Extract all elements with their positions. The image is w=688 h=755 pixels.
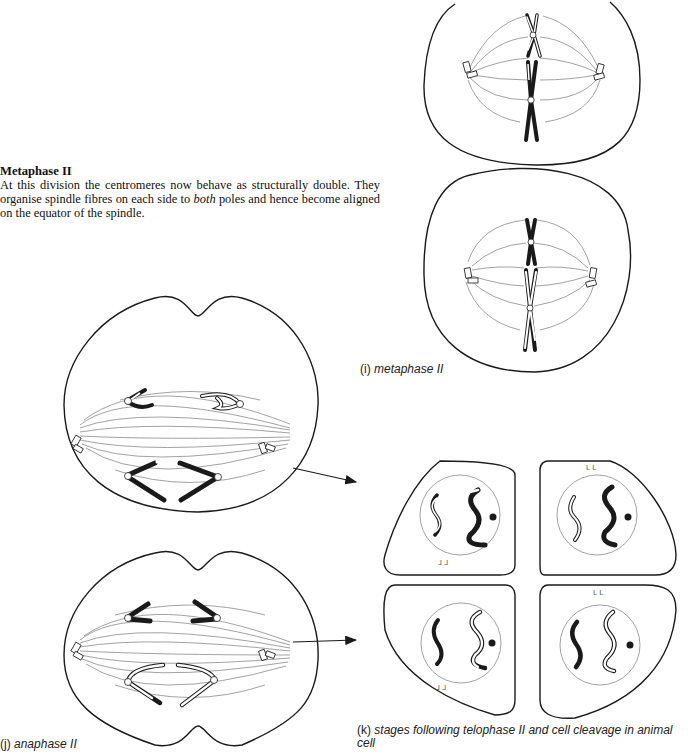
centriole-icon: L L (593, 589, 603, 597)
meiosis-diagram: ⅃ ⅃ L L ⅃ ⅃ L L (0, 0, 688, 755)
daughter-cell-bottom-left: ⅃ ⅃ (384, 585, 515, 715)
chromosome-dark-upper (527, 220, 535, 264)
metaphase-ii-cell-bottom (424, 168, 631, 372)
arrow-icon (293, 468, 356, 482)
caption-i: (i) metaphase II (360, 362, 443, 376)
centriole-icon: L L (586, 464, 596, 472)
daughter-cell-bottom-right: L L (540, 585, 676, 718)
caption-k: (k) stages following telophase II and ce… (357, 724, 687, 750)
centriole-icon: ⅃ ⅃ (438, 559, 448, 567)
chromosome-upper (527, 15, 540, 56)
chromosome-lower (526, 62, 537, 140)
arrow-icon (293, 640, 356, 642)
daughter-cell-top-left: ⅃ ⅃ (384, 461, 515, 575)
caption-j: (j) anaphase II (0, 737, 77, 751)
centriole-icon (464, 268, 597, 288)
anaphase-ii-cell-top (64, 296, 318, 512)
daughter-cell-top-right: L L (540, 461, 676, 575)
chromosome-light-lower (525, 270, 536, 350)
anaphase-ii-cell-bottom (64, 551, 318, 745)
centriole-icon: ⅃ ⅃ (436, 684, 446, 692)
metaphase-ii-cell-top (424, 2, 640, 165)
